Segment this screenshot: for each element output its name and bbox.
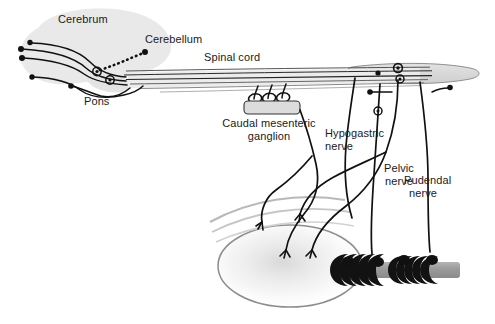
ganglion-ramus-3	[282, 84, 286, 98]
sphincter-soma-4	[426, 255, 438, 265]
label-cerebrum: Cerebrum	[58, 13, 108, 26]
cortical-neuron-soma-3	[19, 55, 25, 61]
pontine-node-inner-1	[95, 70, 98, 73]
sacral-neuron-soma-2	[447, 85, 453, 91]
spinal-cord-line-6	[160, 86, 420, 92]
label-pudendal-nerve-line1: Pudendal	[404, 174, 451, 187]
label-caudal-mesenteric-ganglion-line2: ganglion	[214, 130, 324, 143]
sacral-soma-3	[375, 70, 380, 75]
cortical-neuron-soma-1	[27, 40, 32, 45]
spinal-cord-group	[124, 63, 479, 92]
cortical-neuron-soma-2	[18, 46, 24, 52]
pudendal-nerve-path	[420, 82, 430, 252]
sacral-neuron-axon-2	[432, 88, 448, 92]
sacral-node-inner-2	[399, 78, 402, 81]
pons-neuron-soma	[68, 83, 74, 89]
label-pudendal-nerve-line2: nerve	[409, 187, 437, 200]
ganglion-body	[244, 101, 300, 114]
sacral-neuron-soma-1	[367, 89, 373, 95]
ganglion-ramus-1	[254, 86, 258, 99]
sacral-node-inner-1	[396, 66, 399, 69]
label-spinal-cord: Spinal cord	[204, 51, 260, 64]
sphincter-soma-1	[342, 257, 355, 268]
ganglion-ramus-2	[268, 85, 272, 99]
sacral-node-inner-3	[377, 110, 380, 113]
urethra-group	[330, 254, 460, 286]
pontine-node-inner-2	[108, 78, 111, 81]
label-hypogastric-nerve-line2: nerve	[325, 140, 353, 153]
label-cerebellum: Cerebellum	[145, 33, 202, 46]
label-caudal-mesenteric-ganglion-line1: Caudal mesenteric	[214, 117, 324, 130]
sphincter-soma-2	[372, 257, 384, 267]
label-pons: Pons	[84, 95, 109, 108]
cortical-neuron-soma-4	[29, 74, 34, 79]
label-hypogastric-nerve-line1: Hypogastric	[325, 127, 384, 140]
label-pelvic-nerve-line1: Pelvic	[378, 162, 420, 175]
neuroanatomy-diagram	[0, 0, 495, 324]
cerebellar-terminal-soma	[142, 49, 148, 55]
sphincter-soma-3	[398, 255, 410, 265]
diagram-root: Cerebrum Cerebellum Pons Spinal cord Cau…	[0, 0, 495, 324]
